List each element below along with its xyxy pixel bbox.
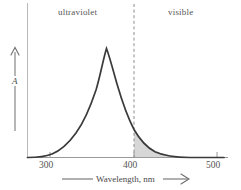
y-axis-label: A <box>11 76 19 86</box>
absorption-spectrum-figure: ultraviolet visible 300 400 500 A Wavele… <box>0 0 241 190</box>
plot-area <box>0 0 241 190</box>
x-tick-label-400: 400 <box>123 160 137 170</box>
shaded-visible-area <box>28 49 225 159</box>
absorbance-curve <box>28 49 225 158</box>
x-tick-label-300: 300 <box>39 160 53 170</box>
x-axis-label: Wavelength, nm <box>96 174 155 184</box>
x-tick-label-500: 500 <box>206 160 220 170</box>
visible-region-label: visible <box>168 7 193 17</box>
uv-region-label: ultraviolet <box>58 7 97 17</box>
